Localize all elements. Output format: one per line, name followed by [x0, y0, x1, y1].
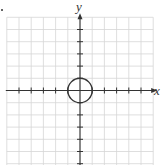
y-axis-arrow-icon — [78, 13, 83, 19]
y-axis-label: y — [76, 0, 82, 13]
coordinate-plane — [0, 0, 162, 165]
x-axis-label: x — [154, 84, 160, 97]
